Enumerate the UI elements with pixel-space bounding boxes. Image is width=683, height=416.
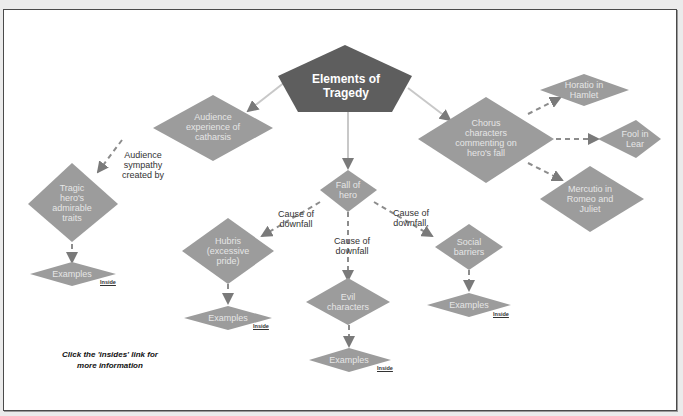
label-examples-1: Examples [42, 269, 102, 279]
edge-root-chorus [408, 88, 450, 120]
label-catharsis: Audienceexperience ofcatharsis [173, 112, 253, 142]
edge-root-catharsis [248, 82, 285, 111]
root-title: Elements of Tragedy [295, 72, 397, 100]
label-examples-3: Examples [319, 355, 379, 365]
label-tragic-hero: Tragichero'sadmirabletraits [37, 183, 107, 223]
edge-label-sympathy: Audiencesympathycreated by [113, 150, 173, 180]
instruction-note: Click the 'insides' link formore informa… [30, 349, 190, 371]
label-hubris: Hubris(excessivepride) [193, 236, 263, 266]
label-examples-2: Examples [198, 313, 258, 323]
label-examples-4: Examples [439, 300, 499, 310]
edge-label-cause-right: Cause ofdownfall, [381, 208, 441, 228]
label-evil: Evilcharacters [313, 292, 383, 312]
inside-link-1[interactable]: Inside [100, 279, 116, 285]
label-fall: Fall ofhero [318, 180, 378, 200]
label-fool: Fool inLear [605, 129, 665, 149]
root-title-line: Elements of [295, 72, 397, 86]
edge-label-cause-mid: Cause ofdownfall [322, 236, 382, 256]
label-mercutio: Mercutio inRomeo andJuliet [555, 184, 625, 214]
label-social: Socialbarriers [439, 237, 499, 257]
inside-link-2[interactable]: Inside [253, 323, 269, 329]
inside-link-4[interactable]: Inside [493, 311, 509, 317]
edge-label-cause-left: Cause ofdownfall [266, 209, 326, 229]
inside-link-3[interactable]: Inside [377, 365, 393, 371]
label-horatio: Horatio inHamlet [554, 80, 614, 100]
label-chorus: Choruscharacterscommenting onhero's fall [436, 118, 536, 158]
root-title-line: Tragedy [295, 86, 397, 100]
